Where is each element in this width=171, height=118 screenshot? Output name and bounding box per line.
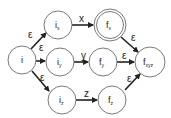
node-fxyz: fxyz bbox=[135, 47, 165, 77]
edge-label-iz-fz: z bbox=[84, 88, 89, 99]
node-ix: ix bbox=[44, 11, 72, 39]
node-fy: fy bbox=[89, 48, 117, 76]
edge-label-fz-fxyz: ε bbox=[127, 73, 132, 84]
node-iz: iz bbox=[48, 86, 76, 114]
node-fz: fz bbox=[98, 86, 126, 114]
edge-label-iy-fy: y bbox=[81, 50, 86, 61]
edge-label-ix-fx: x bbox=[79, 13, 84, 24]
node-fx: fx bbox=[94, 9, 126, 41]
node-i: i bbox=[8, 46, 36, 74]
edge-label-i-ix: ε bbox=[28, 29, 33, 40]
node-label-i: i bbox=[21, 55, 23, 65]
node-iy: iy bbox=[46, 48, 74, 76]
edge-label-fy-fxyz: ε bbox=[122, 50, 127, 61]
nfa-diagram: ε ε ε x y z ε ε ε i ix iy iz bbox=[0, 0, 171, 118]
edge-label-i-iy: ε bbox=[39, 42, 44, 53]
edge-label-i-iz: ε bbox=[40, 72, 45, 83]
edge-label-fx-fxyz: ε bbox=[131, 32, 136, 43]
